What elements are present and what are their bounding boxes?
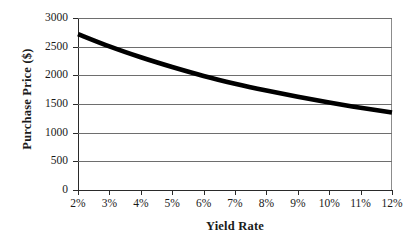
x-tick-mark — [329, 190, 330, 195]
x-tick-mark — [266, 190, 267, 195]
chart-figure: Purchase Price ($) 050010001500200025003… — [0, 0, 420, 244]
x-tick-mark — [204, 190, 205, 195]
x-tick-mark — [109, 190, 110, 195]
x-tick-mark — [298, 190, 299, 195]
x-tick-mark — [141, 190, 142, 195]
x-tick-mark — [172, 190, 173, 195]
y-tick-label: 500 — [8, 155, 68, 166]
x-tick-mark — [235, 190, 236, 195]
y-tick-label: 3000 — [8, 12, 68, 23]
curve-path — [78, 34, 392, 113]
x-tick-label: 12% — [372, 197, 412, 209]
x-axis-title: Yield Rate — [78, 219, 392, 234]
y-tick-label: 1000 — [8, 127, 68, 138]
y-tick-label: 2500 — [8, 41, 68, 52]
y-tick-label: 2000 — [8, 69, 68, 80]
y-tick-label: 0 — [8, 184, 68, 195]
y-tick-label: 1500 — [8, 98, 68, 109]
x-tick-mark — [392, 190, 393, 195]
x-tick-mark — [78, 190, 79, 195]
price-yield-curve — [78, 18, 392, 190]
x-tick-mark — [361, 190, 362, 195]
